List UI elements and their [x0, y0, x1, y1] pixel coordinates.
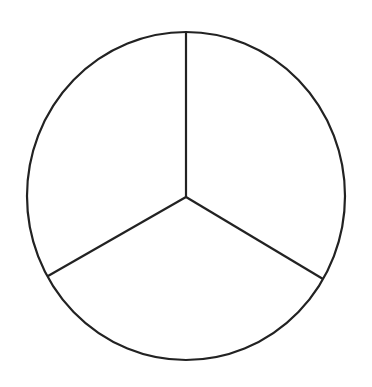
divider-lower-left	[48, 197, 186, 276]
three-sector-circle-diagram	[0, 0, 372, 387]
divider-lower-right	[186, 197, 323, 279]
